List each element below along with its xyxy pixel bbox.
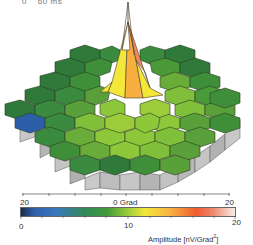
axis-left-label: 20 xyxy=(20,198,29,207)
colorbar-min-label: 0 xyxy=(19,222,23,231)
colorbar-mid-label: 10 xyxy=(124,221,133,230)
axis-right-label: 20 xyxy=(225,198,234,207)
colorbar-max-label: 20 xyxy=(232,218,241,227)
hexagonal-surface-plot xyxy=(0,0,253,192)
colorbar-ticks xyxy=(20,216,236,220)
axis-center-label: 0 Grad xyxy=(113,198,137,207)
colorbar-unit-suffix: ] xyxy=(216,235,218,244)
colorbar-unit-label: Amplitude [nV/Grad2] xyxy=(148,233,218,244)
colorbar-unit-text: Amplitude [nV/Grad xyxy=(148,235,213,244)
